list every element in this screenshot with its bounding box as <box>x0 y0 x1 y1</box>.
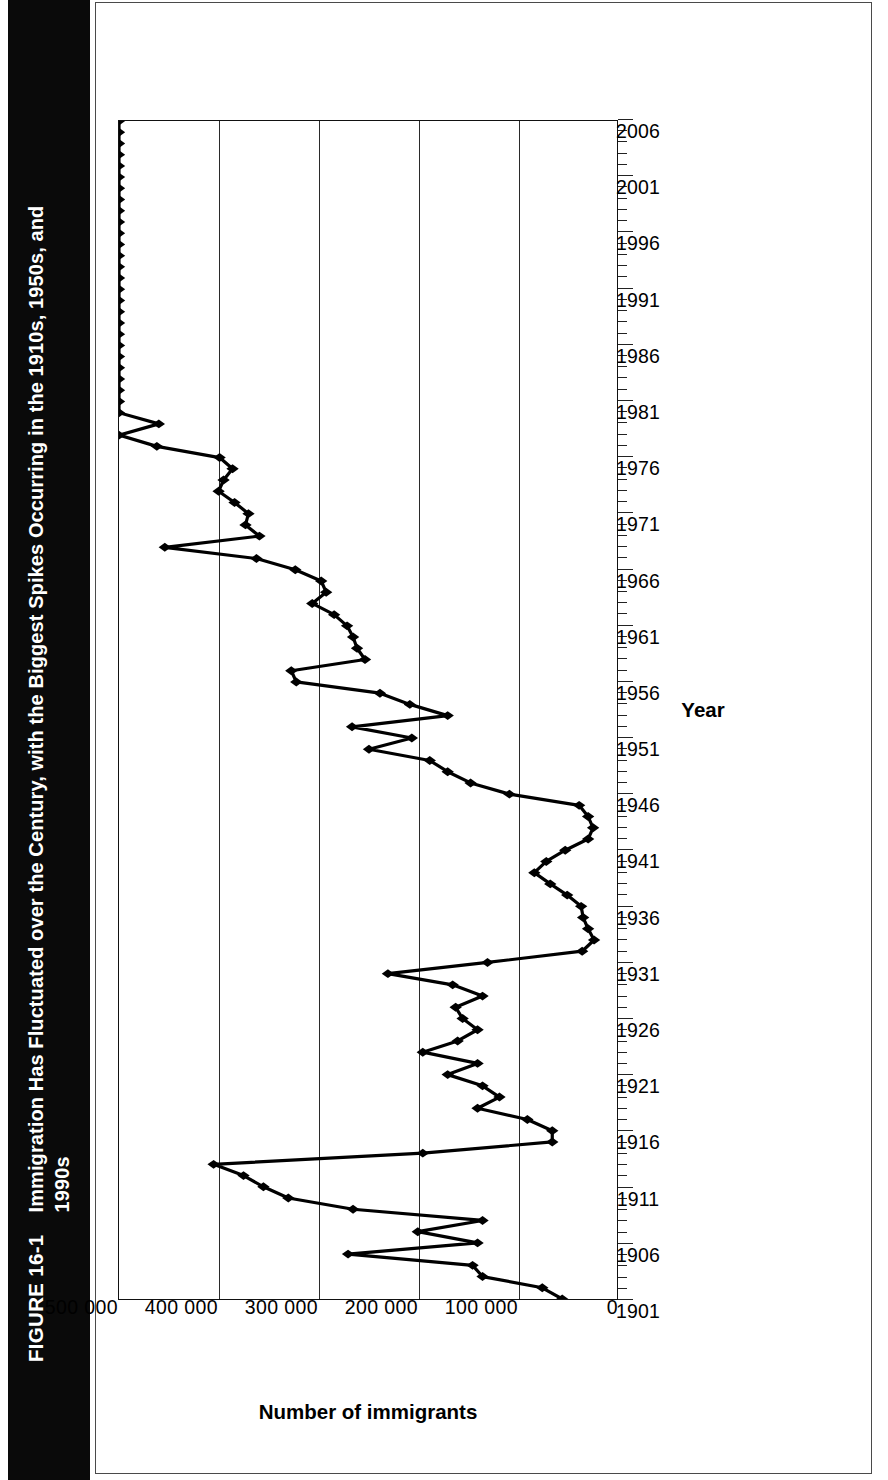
x-tick-label-text: 1951 <box>616 738 660 761</box>
x-tick-1937 <box>618 894 627 895</box>
data-point-marker <box>119 139 125 148</box>
data-point-marker <box>119 296 125 305</box>
y-tick-label: 100 000 <box>445 1297 518 1320</box>
x-tick-1953 <box>618 715 627 716</box>
y-tick-label: 300 000 <box>245 1297 318 1320</box>
data-point-marker <box>153 419 165 428</box>
x-tick-label-text: 1996 <box>616 232 660 255</box>
figure-caption-band: FIGURE 16-1 Immigration Has Fluctuated o… <box>8 0 90 1480</box>
x-tick-1918 <box>618 1108 627 1109</box>
x-tick-label-text: 1911 <box>617 1188 660 1211</box>
data-point-marker <box>159 543 171 552</box>
data-point-marker <box>119 240 125 249</box>
x-tick-1973 <box>618 490 627 491</box>
x-tick-1993 <box>618 265 627 266</box>
data-point-marker <box>119 341 125 350</box>
x-tick-label-text: 1936 <box>616 907 660 930</box>
x-tick-1998 <box>618 209 627 210</box>
data-point-marker <box>417 1048 429 1057</box>
data-point-marker <box>285 666 297 675</box>
data-point-marker <box>347 633 359 642</box>
data-point-marker <box>290 677 302 686</box>
x-tick-1933 <box>618 939 627 940</box>
data-point-marker <box>250 554 262 563</box>
x-tick-1943 <box>618 827 627 828</box>
data-point-marker <box>119 251 125 260</box>
x-tick-1957 <box>618 670 627 671</box>
data-point-marker <box>119 307 125 316</box>
data-point-marker <box>119 352 125 361</box>
x-tick-label-text: 1971 <box>616 513 660 536</box>
data-point-marker <box>503 790 515 799</box>
data-point-marker <box>406 734 418 743</box>
data-point-marker <box>382 969 394 978</box>
x-tick-label-text: 1906 <box>616 1244 660 1267</box>
x-tick-label-text: 1961 <box>616 626 660 649</box>
data-point-marker <box>546 1137 558 1146</box>
data-point-marker <box>359 655 371 664</box>
x-tick-label-text: 2006 <box>616 120 660 143</box>
data-point-marker <box>476 1216 488 1225</box>
x-tick-1942 <box>618 838 627 839</box>
data-point-marker <box>119 218 125 227</box>
x-tick-1913 <box>618 1164 627 1165</box>
data-point-marker <box>119 206 125 215</box>
x-tick-1907 <box>618 1232 627 1233</box>
figure-caption-rotated: FIGURE 16-1 Immigration Has Fluctuated o… <box>8 0 90 1480</box>
data-point-marker <box>363 745 375 754</box>
x-tick-label-text: 1956 <box>616 682 660 705</box>
x-tick-1977 <box>618 445 627 446</box>
x-tick-1978 <box>618 434 627 435</box>
data-point-marker <box>119 150 125 159</box>
x-tick-1903 <box>618 1277 627 1278</box>
data-point-marker <box>582 924 594 933</box>
x-tick-1963 <box>618 602 627 603</box>
x-tick-label-text: 1976 <box>616 457 660 480</box>
x-tick-1902 <box>618 1288 627 1289</box>
data-point-marker <box>347 1205 359 1214</box>
x-tick-label-text: 1931 <box>616 963 660 986</box>
data-point-marker <box>342 1250 354 1259</box>
x-tick-label-text: 1941 <box>616 850 660 873</box>
x-tick-1987 <box>618 333 627 334</box>
x-tick-1982 <box>618 389 627 390</box>
data-point-marker <box>442 711 454 720</box>
x-tick-1947 <box>618 782 627 783</box>
data-point-marker <box>587 823 599 832</box>
data-point-marker <box>119 285 125 294</box>
x-tick-1968 <box>618 546 627 547</box>
x-tick-1912 <box>618 1175 627 1176</box>
chart-rotor: 0100 000200 000300 000400 000500 000 190… <box>118 120 740 1300</box>
data-point-marker <box>577 913 589 922</box>
plot-area <box>118 120 618 1300</box>
data-point-marker <box>119 161 125 170</box>
data-point-marker <box>119 363 125 372</box>
x-tick-1952 <box>618 726 627 727</box>
x-tick-1927 <box>618 1007 627 1008</box>
x-tick-1938 <box>618 883 627 884</box>
y-tick-label: 200 000 <box>345 1297 418 1320</box>
x-tick-label-text: 2001 <box>616 176 660 199</box>
x-tick-2003 <box>618 153 627 154</box>
x-tick-label-text: 1946 <box>616 794 660 817</box>
x-tick-label-text: 1921 <box>616 1075 660 1098</box>
line-chart: 0100 000200 000300 000400 000500 000 190… <box>118 120 740 1300</box>
data-point-marker <box>119 375 125 384</box>
x-tick-1962 <box>618 613 627 614</box>
data-point-marker <box>119 128 125 137</box>
data-point-marker <box>119 274 125 283</box>
x-tick-1997 <box>618 220 627 221</box>
data-point-marker <box>119 318 125 327</box>
data-point-marker <box>412 1227 424 1236</box>
x-tick-1958 <box>618 658 627 659</box>
data-point-marker <box>119 386 125 395</box>
x-tick-label-text: 1981 <box>616 401 660 424</box>
data-point-marker <box>119 330 125 339</box>
x-tick-label-text: 1966 <box>616 570 660 593</box>
figure-title: Immigration Has Fluctuated over the Cent… <box>23 203 76 1213</box>
x-tick-2002 <box>618 164 627 165</box>
data-point-marker <box>346 722 358 731</box>
data-point-marker <box>351 644 363 653</box>
y-tick-label: 400 000 <box>145 1297 218 1320</box>
x-tick-1917 <box>618 1119 627 1120</box>
